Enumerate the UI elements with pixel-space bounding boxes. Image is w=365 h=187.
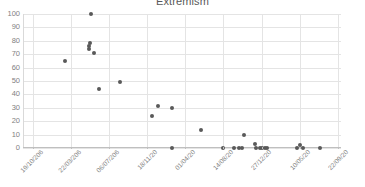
y-tick-label: 90 [0,24,20,32]
y-tick-label: 30 [0,104,20,112]
x-tick-label: 10/05/20 [289,149,311,171]
scatter-chart: Extremism 0102030405060708090100 19/10/2… [0,0,365,187]
data-point [92,51,96,55]
y-tick-label: 100 [0,10,20,18]
x-tick-label: 01/04/20 [174,149,196,171]
y-axis-line [23,14,24,148]
x-tick-mark [262,147,263,149]
x-tick-label: 27/12/20 [251,149,273,171]
y-tick-label: 40 [0,91,20,99]
data-point [242,133,246,137]
data-point [63,59,67,63]
x-tick-mark [338,147,339,149]
x-tick-label: 22/03/206 [57,149,82,174]
gridline [147,14,148,148]
y-tick-label: 70 [0,50,20,58]
x-tick-mark [71,147,72,149]
data-point [87,47,91,51]
x-tick-mark [33,147,34,149]
y-tick-label: 60 [0,64,20,72]
x-tick-label: 19/10/206 [19,149,44,174]
x-tick-label: 14/08/20 [212,149,234,171]
x-tick-label: 18/11/20 [136,149,158,171]
y-tick-label: 0 [0,144,20,152]
x-tick-mark [109,147,110,149]
x-axis: 19/10/20622/03/20606/07/20618/11/2001/04… [23,149,341,187]
data-point [199,128,203,132]
x-tick-label: 22/09/20 [327,149,349,171]
y-axis: 0102030405060708090100 [0,14,20,148]
x-tick-mark [300,147,301,149]
x-tick-label: 06/07/206 [95,149,120,174]
gridline [338,14,339,148]
chart-title: Extremism [0,0,365,7]
x-tick-mark [185,147,186,149]
gridline [71,14,72,148]
gridline [33,14,34,148]
y-tick-label: 10 [0,131,20,139]
plot-area [23,14,341,148]
y-tick-label: 20 [0,117,20,125]
x-tick-mark [223,147,224,149]
y-tick-label: 80 [0,37,20,45]
y-tick-label: 50 [0,77,20,85]
gridline [185,14,186,148]
gridline [223,14,224,148]
gridline [262,14,263,148]
gridline [300,14,301,148]
data-point [150,114,154,118]
gridline [109,14,110,148]
x-tick-mark [147,147,148,149]
